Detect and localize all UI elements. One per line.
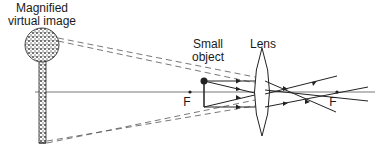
virtual-image-label: Magnified virtual image (2, 2, 82, 28)
virtual-image (25, 28, 59, 143)
virtual-image-label-line2: virtual image (2, 15, 82, 28)
focal-point-left-label: F (180, 96, 194, 109)
convex-lens (255, 48, 270, 136)
small-object-label-line2: object (183, 51, 233, 64)
focal-point-right-label: F (326, 96, 340, 109)
small-object-label: Small object (183, 38, 233, 64)
ray-arrows-incident (236, 79, 241, 110)
magnifying-glass-ray-diagram: Magnified virtual image Small object Len… (0, 0, 377, 153)
focal-point-left (188, 90, 191, 93)
lens-label: Lens (246, 38, 280, 51)
focal-point-right (335, 90, 338, 93)
incident-rays (204, 81, 259, 107)
